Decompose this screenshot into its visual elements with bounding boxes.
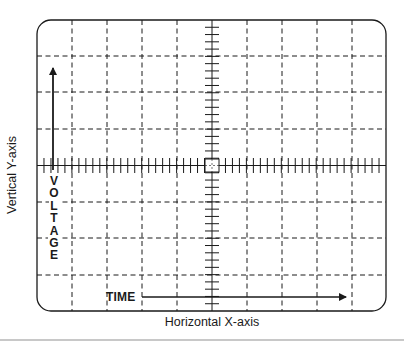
voltage-letter: T [49,212,58,224]
time-label: TIME [106,290,135,304]
oscilloscope-graticule [0,0,404,343]
voltage-letter: E [49,249,59,261]
y-axis-label: Vertical Y-axis [5,136,19,214]
x-axis-label: Horizontal X-axis [165,315,259,329]
bottom-divider [0,339,404,341]
voltage-label: V O L T A G E [47,175,61,262]
voltage-letter: O [48,187,59,199]
